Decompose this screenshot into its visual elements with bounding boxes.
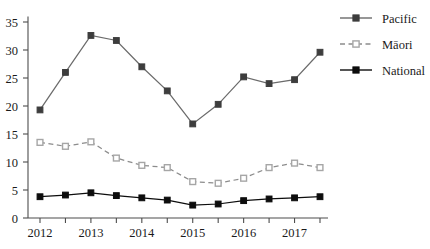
marker-National-10 [292, 195, 298, 201]
series-line-National [40, 193, 320, 205]
marker-National-5 [164, 197, 170, 203]
marker-Pacific-1 [63, 70, 69, 76]
legend-marker-National [353, 67, 359, 73]
marker-Pacific-11 [317, 49, 323, 55]
x-tick-label-2017: 2017 [282, 226, 307, 240]
series-national [37, 190, 323, 208]
y-tick-label-30: 30 [6, 44, 19, 58]
marker-Māori-6 [190, 179, 196, 185]
x-tick-label-2016: 2016 [231, 226, 256, 240]
series-line-Māori [40, 142, 320, 183]
series-pacific [37, 33, 323, 127]
series-line-Pacific [40, 35, 320, 123]
marker-National-7 [215, 201, 221, 207]
marker-National-1 [63, 192, 69, 198]
marker-Māori-8 [241, 175, 247, 181]
marker-Pacific-4 [139, 64, 145, 70]
y-tick-label-20: 20 [6, 100, 19, 114]
marker-Māori-7 [215, 180, 221, 186]
marker-Māori-9 [266, 165, 272, 171]
marker-Pacific-9 [266, 81, 272, 87]
marker-National-0 [37, 194, 43, 200]
marker-Māori-0 [37, 140, 43, 146]
marker-Māori-1 [63, 143, 69, 149]
chart-canvas: 05101520253035201220132014201520162017Pa… [0, 0, 430, 249]
legend: PacificMāoriNational [340, 12, 426, 78]
marker-Māori-11 [317, 165, 323, 171]
marker-Pacific-0 [37, 107, 43, 113]
marker-Pacific-10 [292, 77, 298, 83]
y-tick-label-5: 5 [12, 184, 18, 198]
marker-National-4 [139, 195, 145, 201]
x-tick-label-2013: 2013 [78, 226, 103, 240]
marker-Māori-10 [292, 160, 298, 166]
marker-Pacific-5 [164, 88, 170, 94]
y-tick-label-10: 10 [6, 156, 19, 170]
legend-marker-Māori [353, 41, 359, 47]
legend-marker-Pacific [353, 15, 359, 21]
x-tick-label-2015: 2015 [180, 226, 205, 240]
y-tick-label-0: 0 [12, 212, 18, 226]
x-axis: 201220132014201520162017 [28, 218, 329, 240]
y-axis: 05101520253035 [6, 16, 29, 226]
marker-National-11 [317, 194, 323, 200]
line-chart: 05101520253035201220132014201520162017Pa… [0, 0, 430, 249]
y-tick-label-35: 35 [6, 16, 19, 30]
x-tick-label-2012: 2012 [28, 226, 53, 240]
legend-label-National: National [382, 64, 426, 78]
marker-National-8 [241, 198, 247, 204]
marker-National-3 [113, 193, 119, 199]
marker-Māori-5 [164, 165, 170, 171]
marker-Māori-3 [113, 155, 119, 161]
marker-Pacific-7 [215, 101, 221, 107]
marker-National-6 [190, 202, 196, 208]
marker-National-2 [88, 190, 94, 196]
marker-Pacific-8 [241, 74, 247, 80]
y-tick-label-15: 15 [6, 128, 19, 142]
y-tick-label-25: 25 [6, 72, 19, 86]
marker-Pacific-2 [88, 33, 94, 39]
marker-Māori-4 [139, 162, 145, 168]
legend-label-Pacific: Pacific [382, 12, 417, 26]
marker-Pacific-6 [190, 121, 196, 127]
series-mori [37, 139, 323, 186]
marker-Māori-2 [88, 139, 94, 145]
legend-label-Māori: Māori [382, 38, 413, 52]
marker-Pacific-3 [113, 38, 119, 44]
marker-National-9 [266, 196, 272, 202]
x-tick-label-2014: 2014 [129, 226, 155, 240]
